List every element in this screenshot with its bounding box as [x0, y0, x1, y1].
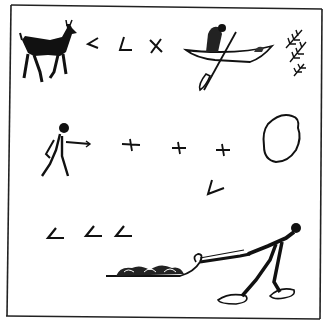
fir-branches-icon	[286, 30, 306, 76]
cross-mark-icon	[216, 144, 230, 156]
drawing-canvas	[0, 0, 328, 327]
angle-mark-icon	[208, 180, 224, 194]
x-mark-icon	[150, 39, 162, 53]
lake-outline-icon	[264, 115, 300, 162]
angle-mark-icon	[120, 37, 132, 50]
cross-mark-icon	[172, 142, 186, 154]
snowshoer-pulling-icon	[218, 223, 301, 304]
loaded-toboggan-icon	[106, 250, 250, 276]
angle-mark-icon	[116, 226, 132, 236]
deer-icon	[20, 20, 77, 82]
canoe-with-paddler-icon	[186, 24, 272, 90]
angle-mark-icon	[86, 226, 102, 236]
pictograph-figure: Pictographic drawing inside a rectangula…	[0, 0, 328, 327]
pointing-person-icon	[42, 123, 90, 176]
cross-mark-icon	[122, 139, 140, 151]
angle-mark-icon	[48, 228, 64, 238]
angle-mark-icon	[88, 38, 98, 48]
